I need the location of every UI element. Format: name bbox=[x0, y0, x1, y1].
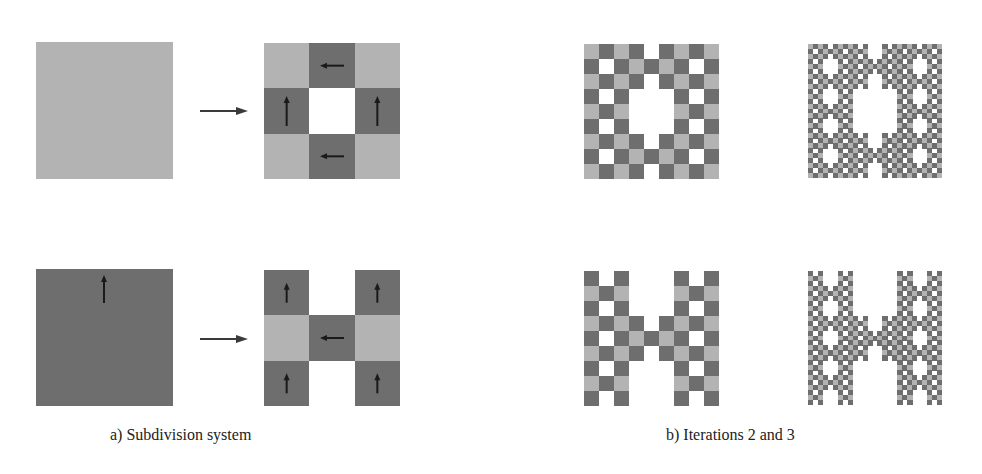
panel-a-subdivision-system: a) Subdivision system bbox=[0, 0, 470, 474]
caption-b: b) Iterations 2 and 3 bbox=[666, 426, 795, 444]
panel-b-iterations: b) Iterations 2 and 3 bbox=[500, 0, 982, 474]
rule1-output-grid bbox=[264, 43, 400, 179]
light-seed-iteration-2 bbox=[584, 44, 719, 179]
dark-seed-iteration-3 bbox=[808, 271, 942, 405]
rule2-arrow-icon bbox=[198, 332, 250, 346]
light-seed-iteration-3 bbox=[808, 44, 942, 178]
dark-seed-iteration-2 bbox=[584, 271, 719, 406]
caption-a: a) Subdivision system bbox=[110, 426, 251, 444]
rule2-input-dark-square bbox=[36, 269, 173, 406]
rule1-input-light-square bbox=[36, 42, 173, 179]
rule1-arrow-icon bbox=[198, 104, 250, 118]
rule2-output-grid bbox=[264, 270, 400, 406]
